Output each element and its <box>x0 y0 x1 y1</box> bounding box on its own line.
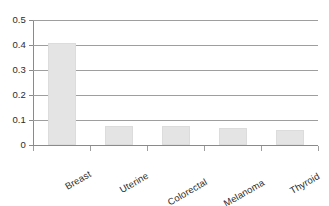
y-axis-tick-mark <box>29 20 33 21</box>
x-axis-tick-mark <box>33 146 34 151</box>
gridline <box>33 120 318 121</box>
x-axis-category-label: Uterine <box>118 171 150 195</box>
x-axis-tick-mark <box>261 146 262 151</box>
y-axis-tick-label: 0 <box>21 140 26 150</box>
plot-area <box>33 20 318 145</box>
gridline <box>33 45 318 46</box>
bar <box>105 126 133 145</box>
gridline <box>33 95 318 96</box>
bar <box>219 128 247 145</box>
y-axis-tick-label: 0.2 <box>12 90 26 100</box>
y-axis-tick-label: 0.1 <box>12 115 26 125</box>
y-axis-tick-label: 0.3 <box>12 65 26 75</box>
x-axis-tick-mark <box>90 146 91 151</box>
bar <box>48 43 76 146</box>
x-axis-category-label: Thyroid <box>288 171 321 195</box>
x-axis-category-label: Colorectal <box>165 177 208 206</box>
x-axis-tick-mark <box>318 146 319 151</box>
y-axis-tick-label: 0.5 <box>12 15 26 25</box>
gridline <box>33 145 318 146</box>
gridline <box>33 70 318 71</box>
x-axis-tick-mark <box>147 146 148 151</box>
y-axis-tick-labels: 00.10.20.30.40.5 <box>0 0 26 206</box>
x-axis-category-label: Melanoma <box>221 178 265 206</box>
gridline <box>33 20 318 21</box>
bar <box>162 126 190 145</box>
bar-chart: 00.10.20.30.40.5 BreastUterineColorectal… <box>0 0 329 206</box>
y-axis-tick-mark <box>29 95 33 96</box>
bar <box>276 130 304 145</box>
x-axis-category-label: Breast <box>63 169 92 191</box>
y-axis-tick-mark <box>29 45 33 46</box>
y-axis-tick-mark <box>29 70 33 71</box>
y-axis-tick-label: 0.4 <box>12 40 26 50</box>
x-axis-tick-mark <box>204 146 205 151</box>
y-axis-tick-mark <box>29 145 33 146</box>
y-axis-tick-mark <box>29 120 33 121</box>
